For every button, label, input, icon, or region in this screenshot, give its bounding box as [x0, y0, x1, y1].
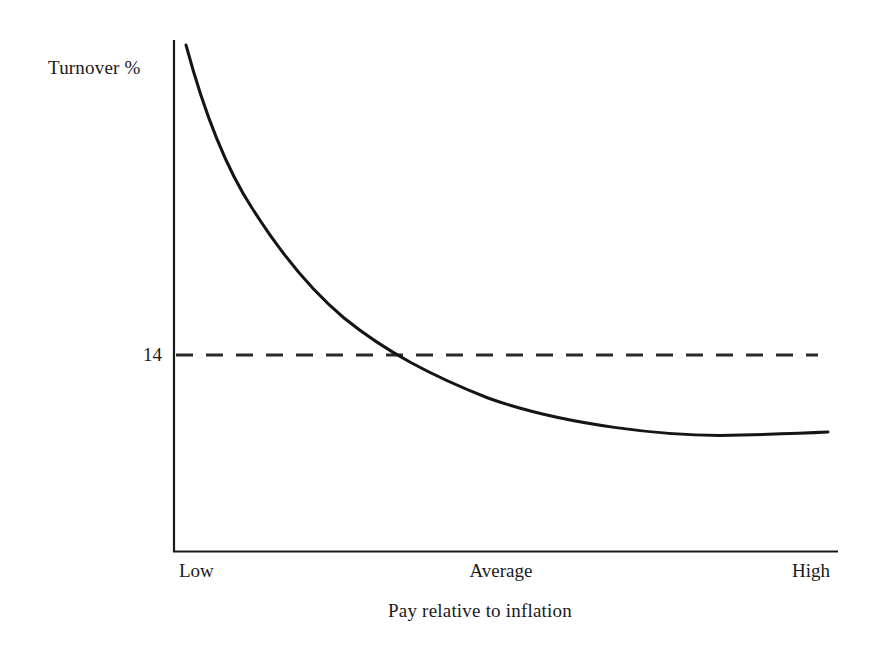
x-tick-label-high: High — [786, 561, 836, 580]
y-tick-label-14: 14 — [136, 345, 162, 364]
chart-figure: Turnover % 14 Low Average High Pay relat… — [0, 0, 880, 646]
turnover-curve — [186, 45, 828, 435]
y-axis-title: Turnover % — [48, 58, 141, 77]
x-tick-label-average: Average — [455, 561, 547, 580]
chart-plot-area — [0, 0, 880, 646]
x-axis-title: Pay relative to inflation — [380, 601, 580, 620]
x-tick-label-low: Low — [179, 561, 214, 580]
